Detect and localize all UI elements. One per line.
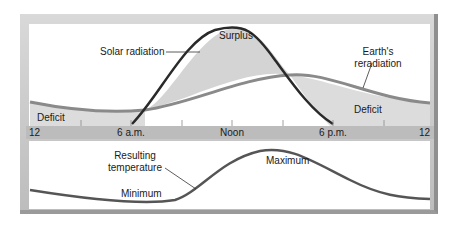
surplus-label: Surplus <box>219 30 253 41</box>
earths-reradiation-label-1: Earth's <box>363 46 394 57</box>
deficit-left-label: Deficit <box>37 112 65 123</box>
axis-tick-12-left: 12 <box>29 127 41 138</box>
resulting-temperature-label-2: temperature <box>108 162 162 173</box>
radiation-diagram: Solar radiation Surplus Earth's reradiat… <box>0 0 467 236</box>
minimum-label: Minimum <box>121 188 162 199</box>
earths-reradiation-label-2: reradiation <box>354 58 401 69</box>
axis-tick-6pm: 6 p.m. <box>319 127 347 138</box>
axis-tick-6am: 6 a.m. <box>117 127 145 138</box>
axis-tick-noon: Noon <box>220 127 244 138</box>
maximum-label: Maximum <box>266 155 309 166</box>
resulting-temperature-label-1: Resulting <box>114 150 156 161</box>
deficit-right-label: Deficit <box>354 104 382 115</box>
solar-radiation-label: Solar radiation <box>100 46 164 57</box>
axis-tick-12-right: 12 <box>419 127 431 138</box>
